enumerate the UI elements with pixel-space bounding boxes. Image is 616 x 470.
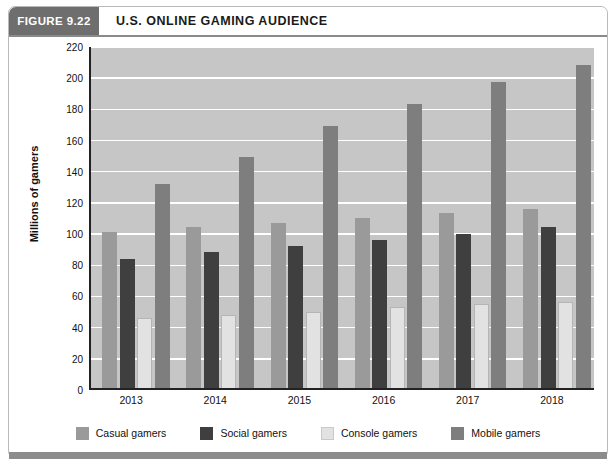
bar-social	[120, 259, 135, 388]
x-axis-tick-label: 2017	[456, 394, 479, 406]
bar-mobile	[323, 126, 338, 388]
y-axis-tick-label: 100	[49, 229, 83, 240]
bar-console	[137, 318, 152, 388]
y-axis-tick-label: 40	[49, 322, 83, 333]
y-axis-tick-label: 80	[49, 260, 83, 271]
x-axis-tick-label: 2014	[204, 394, 227, 406]
y-axis-title: Millions of gamers	[28, 109, 40, 279]
y-axis-tick-label: 140	[49, 166, 83, 177]
figure-title: U.S. ONLINE GAMING AUDIENCE	[99, 7, 607, 35]
figure-bottom-bar	[9, 452, 607, 459]
y-axis-tick-label: 180	[49, 104, 83, 115]
bar-group	[175, 47, 259, 388]
legend-label-casual: Casual gamers	[96, 427, 167, 439]
bar-mobile	[239, 157, 254, 388]
figure-header: FIGURE 9.22 U.S. ONLINE GAMING AUDIENCE	[9, 7, 607, 35]
legend-label-mobile: Mobile gamers	[471, 427, 540, 439]
bar-console	[474, 304, 489, 388]
y-axis-tick-label: 20	[49, 353, 83, 364]
bar-social	[541, 227, 556, 388]
x-axis-tick-label: 2013	[119, 394, 142, 406]
bar-casual	[355, 218, 370, 388]
bar-group	[428, 47, 512, 388]
y-axis-tick-label: 200	[49, 73, 83, 84]
y-axis-tick-label: 0	[49, 385, 83, 396]
bar-mobile	[576, 65, 591, 388]
chart-legend: Casual gamersSocial gamersConsole gamers…	[9, 420, 607, 446]
bar-casual	[102, 232, 117, 388]
legend-item-casual[interactable]: Casual gamers	[76, 427, 167, 440]
legend-label-console: Console gamers	[341, 427, 417, 439]
x-axis-tick-label: 2018	[540, 394, 563, 406]
bar-social	[204, 252, 219, 388]
bar-console	[221, 315, 236, 388]
bar-social	[456, 234, 471, 388]
bar-mobile	[155, 184, 170, 388]
legend-swatch-console	[321, 427, 334, 440]
bar-group	[259, 47, 343, 388]
plot-inner	[91, 47, 594, 388]
legend-swatch-casual	[76, 427, 89, 440]
bar-social	[372, 240, 387, 388]
figure-number-tag: FIGURE 9.22	[9, 7, 99, 35]
legend-item-console[interactable]: Console gamers	[321, 427, 417, 440]
chart-body: Millions of gamers 020406080100120140160…	[9, 38, 607, 420]
bar-casual	[186, 227, 201, 388]
bar-console	[306, 312, 321, 388]
legend-swatch-mobile	[451, 427, 464, 440]
legend-swatch-social	[200, 427, 213, 440]
x-axis-tick-label: 2016	[372, 394, 395, 406]
bar-casual	[523, 209, 538, 388]
bar-console	[390, 307, 405, 388]
bar-console	[558, 302, 573, 388]
bar-mobile	[407, 104, 422, 388]
y-axis-tick-label: 60	[49, 291, 83, 302]
y-axis-tick-label: 160	[49, 135, 83, 146]
y-axis-tick-label: 220	[49, 42, 83, 53]
bar-group	[91, 47, 175, 388]
bar-mobile	[491, 82, 506, 388]
y-axis-tick-labels: 020406080100120140160180200220	[43, 47, 83, 390]
bar-casual	[271, 223, 286, 388]
header-divider	[9, 35, 607, 37]
bar-group	[344, 47, 428, 388]
figure-root: FIGURE 9.22 U.S. ONLINE GAMING AUDIENCE …	[0, 0, 616, 470]
legend-item-social[interactable]: Social gamers	[200, 427, 287, 440]
bar-social	[288, 246, 303, 388]
legend-item-mobile[interactable]: Mobile gamers	[451, 427, 540, 440]
x-axis-tick-label: 2015	[288, 394, 311, 406]
legend-label-social: Social gamers	[220, 427, 287, 439]
plot-area	[89, 47, 594, 390]
bar-group	[512, 47, 594, 388]
y-axis-tick-label: 120	[49, 197, 83, 208]
bar-casual	[439, 213, 454, 388]
